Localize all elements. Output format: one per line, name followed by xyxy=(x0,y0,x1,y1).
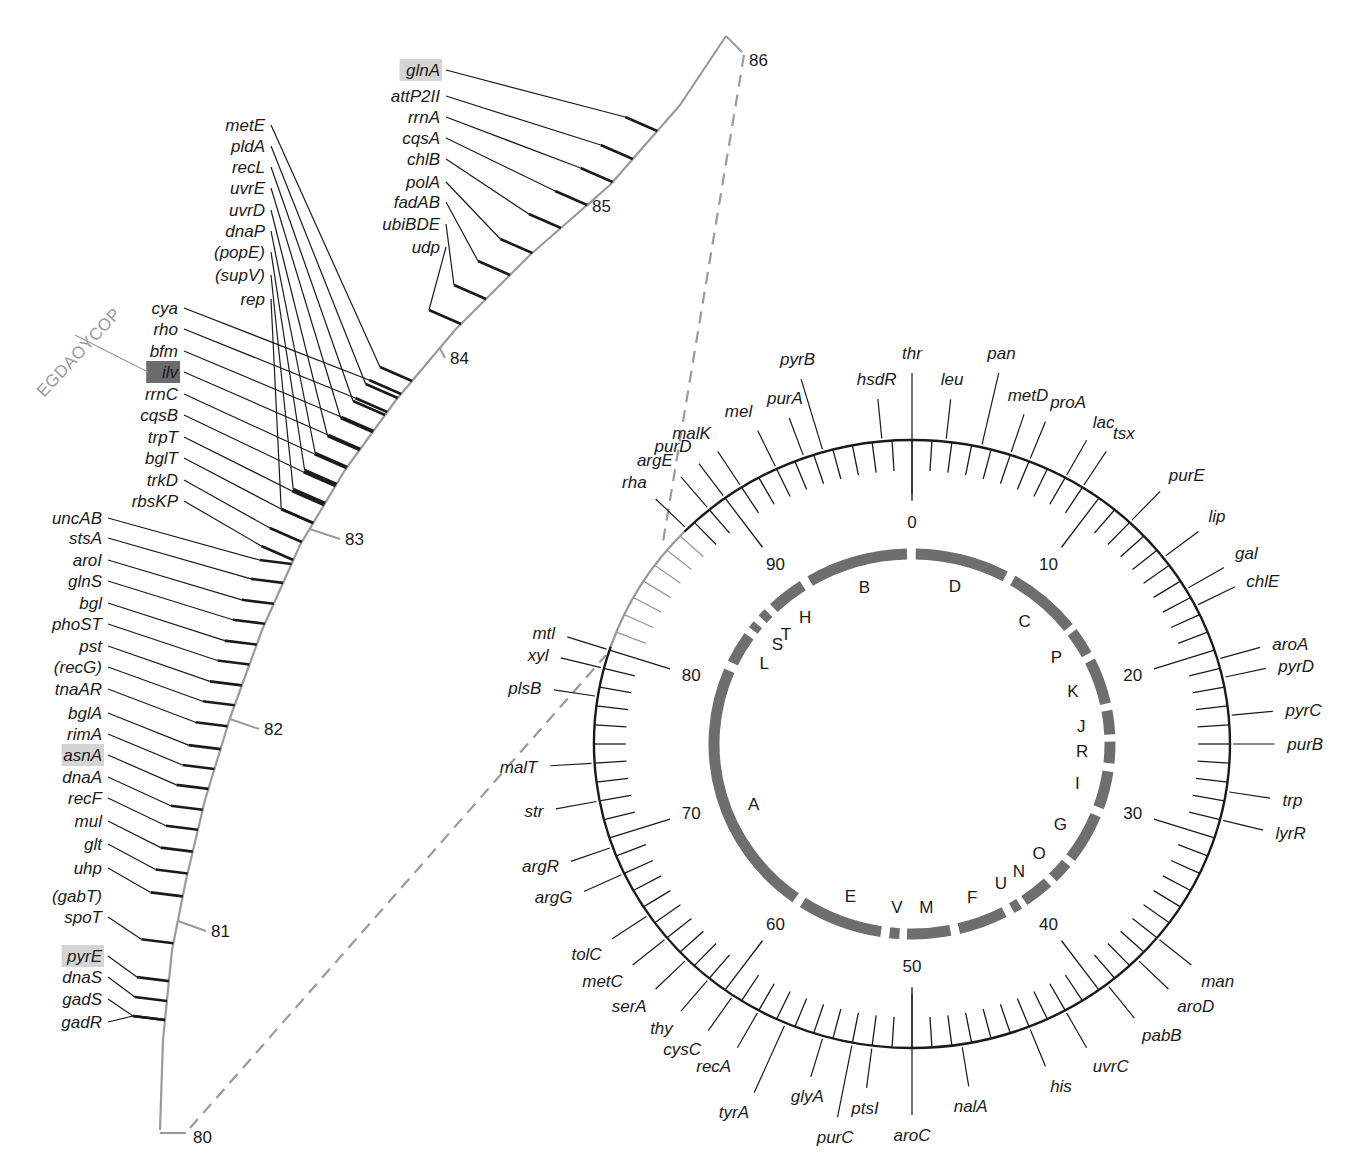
gene-position-bar xyxy=(305,470,337,484)
gene-label: glt xyxy=(84,835,103,854)
minute-tick xyxy=(795,461,807,489)
minute-tick xyxy=(1108,522,1130,544)
minute-label: 20 xyxy=(1123,666,1142,685)
gene-position-bar xyxy=(196,722,228,726)
gene-label: pabB xyxy=(1141,1026,1182,1045)
gene-label: rimA xyxy=(67,725,102,744)
gene-label: asnA xyxy=(63,746,102,765)
minute-tick xyxy=(667,550,692,569)
segment-label: I xyxy=(1075,774,1080,793)
gene-label: thr xyxy=(902,344,923,363)
gene-label: phoST xyxy=(51,615,104,634)
gene-leader-line xyxy=(108,603,225,641)
minute-tick xyxy=(694,943,716,965)
gene-label: rep xyxy=(240,290,265,309)
minute-tick xyxy=(709,510,729,533)
minute-label: 86 xyxy=(749,51,768,70)
minute-tick xyxy=(694,522,716,544)
gene-leader-line xyxy=(108,538,251,579)
minute-tick xyxy=(1094,955,1114,978)
gene-position-bar xyxy=(478,261,510,275)
gene-label: metC xyxy=(582,972,623,991)
gene-leader-line xyxy=(271,210,328,436)
gene-label: uvrD xyxy=(229,201,265,220)
gene-label: plsB xyxy=(507,679,541,698)
gene-leader-line xyxy=(1220,647,1260,658)
gene-leader-line xyxy=(1225,668,1265,677)
gene-label: rho xyxy=(153,320,178,339)
gene-label: metE xyxy=(225,116,265,135)
gene-leader-line xyxy=(108,646,210,681)
gene-leader-line xyxy=(1188,568,1224,588)
gene-leader-line xyxy=(108,1016,133,1022)
gene-position-bar xyxy=(233,620,265,624)
gene-leader-line xyxy=(446,224,454,285)
gene-leader-line xyxy=(550,763,591,765)
gene-leader-line xyxy=(184,458,281,509)
gene-label: lip xyxy=(1208,507,1225,526)
gene-label: pyrB xyxy=(779,350,815,369)
minute-tick xyxy=(1034,992,1048,1020)
gene-leader-line xyxy=(108,798,166,826)
minute-tick xyxy=(1189,668,1220,676)
minute-tick xyxy=(1133,550,1158,569)
segment-R xyxy=(1109,742,1110,763)
gene-leader-line xyxy=(108,755,176,785)
chromosome-circle-gray xyxy=(611,532,685,647)
gene-leader-line xyxy=(962,1047,968,1086)
gene-label: ubiBDE xyxy=(382,215,440,234)
minute-tick xyxy=(1144,565,1170,583)
gene-label: pst xyxy=(78,637,103,656)
gene-leader-line xyxy=(108,518,260,560)
gene-label: pyrC xyxy=(1285,701,1323,720)
gene-position-bar xyxy=(156,870,188,874)
gene-leader-line xyxy=(656,499,685,527)
segment-L xyxy=(733,636,749,663)
gene-label: gadR xyxy=(61,1013,102,1032)
gene-leader-line xyxy=(446,159,529,214)
gene-label: serA xyxy=(612,997,647,1016)
gene-label: uhp xyxy=(74,859,102,878)
minute-label: 80 xyxy=(682,666,701,685)
gene-leader-line xyxy=(758,430,776,466)
gene-label: tolC xyxy=(571,945,602,964)
minute-tick xyxy=(1133,918,1158,937)
minute-tick xyxy=(680,931,703,952)
gene-leader-line xyxy=(681,981,707,1011)
gene-leader-line xyxy=(1067,440,1087,475)
gene-label: recL xyxy=(232,158,265,177)
minute-tick xyxy=(1198,761,1230,763)
gene-label: pyrD xyxy=(1277,657,1314,676)
genetic-map-figure: 80818283848586glnAattP2IIrrnAcqsAchlBpol… xyxy=(0,0,1353,1167)
gene-position-bar xyxy=(261,546,293,560)
minute-tick xyxy=(667,918,692,937)
gene-label: gal xyxy=(1235,544,1259,563)
minute-tick xyxy=(1198,725,1230,727)
minute-tick xyxy=(633,876,661,891)
gene-leader-line xyxy=(108,977,135,997)
minute-tick xyxy=(814,455,824,484)
gene-leader-line xyxy=(1139,961,1168,989)
minute-tick xyxy=(872,1015,876,1045)
minute-tick xyxy=(1000,1004,1010,1033)
gene-position-bar xyxy=(529,214,561,228)
minute-tick xyxy=(595,725,627,727)
gene-position-bar xyxy=(242,600,274,604)
dashed-connector-86 xyxy=(662,55,744,548)
gene-leader-line xyxy=(1166,532,1199,556)
gene-leader-line xyxy=(108,581,233,620)
minute-label: 82 xyxy=(264,720,283,739)
minute-label: 80 xyxy=(193,1128,212,1147)
gene-leader-line xyxy=(446,70,625,117)
minute-tick xyxy=(852,445,858,475)
gene-label: gadS xyxy=(62,990,102,1009)
segment-label: G xyxy=(1054,815,1067,834)
gene-label: thy xyxy=(650,1019,674,1038)
minute-tick xyxy=(948,1015,952,1045)
minute-tick xyxy=(966,445,972,475)
minute-tick xyxy=(1154,650,1214,669)
minute-tick xyxy=(1196,706,1228,710)
minute-tick xyxy=(725,498,762,547)
gene-position-bar xyxy=(293,489,325,503)
gene-position-bar xyxy=(303,472,335,486)
